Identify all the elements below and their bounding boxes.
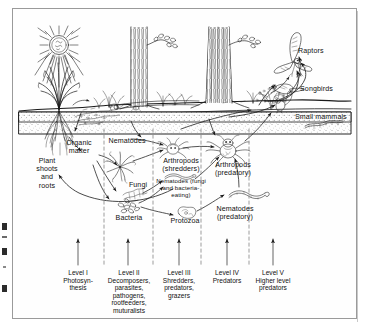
label-songbirds: Songbirds — [300, 85, 360, 93]
label-nematodes-fungi-bacteria-eating: Nematodes (fungi and bacteria- eating) — [153, 177, 209, 198]
label-nematodes-predatory: Nematodes (predatory) — [207, 205, 263, 221]
legend-level-5: Level V Higher level predators — [247, 269, 299, 292]
scan-artifact — [2, 248, 7, 255]
label-organic-matter: Organic matter — [55, 139, 103, 155]
scan-artifact — [2, 236, 7, 238]
label-fungi: Fungi — [119, 181, 157, 189]
soil-food-web-figure: Raptors Songbirds Small mammals Plant sh… — [0, 0, 369, 327]
scan-artifact — [2, 285, 7, 292]
label-protozoa: Protozoa — [161, 217, 209, 225]
label-small-mammals: Small mammals — [295, 113, 359, 121]
label-plant-shoots-and-roots: Plant shoots and roots — [23, 157, 71, 190]
scan-artifact — [2, 223, 7, 230]
label-raptors: Raptors — [298, 47, 358, 55]
scan-artifact — [3, 266, 6, 268]
legend-level-4: Level IV Predators — [202, 269, 252, 284]
label-arthropods-shredders: Arthropods (shredders) — [153, 157, 209, 173]
label-nematodes: Nematodes — [101, 137, 153, 145]
legend-level-1: Level I Photosyn- thesis — [53, 269, 103, 292]
figure-frame: Raptors Songbirds Small mammals Plant sh… — [12, 8, 357, 319]
legend-level-2: Level II Decomposers, parasites, pathoge… — [101, 269, 157, 315]
label-arthropods-predatory: Arthropods (predatory) — [205, 161, 261, 177]
legend-level-3: Level III Shredders, predators, grazers — [153, 269, 205, 299]
label-bacteria: Bacteria — [105, 214, 153, 222]
